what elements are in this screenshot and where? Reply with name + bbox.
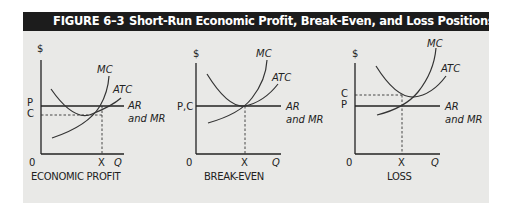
cost-label: C bbox=[341, 88, 348, 99]
panel-economic-profit: $ P C MC ATC AR and MR 0 X Q ECONOMIC PR… bbox=[27, 43, 166, 182]
atc-curve bbox=[51, 89, 121, 116]
atc-curve bbox=[207, 74, 278, 106]
diagrams: $ P C MC ATC AR and MR 0 X Q ECONOMIC PR… bbox=[0, 0, 510, 209]
panel-caption: BREAK-EVEN bbox=[204, 171, 264, 182]
x-mark-label: X bbox=[398, 157, 405, 168]
panel-loss: $ C P MC ATC AR and MR 0 X Q LOSS bbox=[341, 38, 483, 182]
origin-label: 0 bbox=[346, 157, 352, 168]
x-mark-label: X bbox=[98, 157, 105, 168]
ar-label: AR bbox=[127, 100, 142, 111]
mc-curve bbox=[52, 76, 109, 138]
y-axis-label: $ bbox=[193, 48, 199, 59]
x-mark-label: X bbox=[241, 157, 248, 168]
origin-label: 0 bbox=[186, 157, 192, 168]
price-label: P bbox=[27, 97, 33, 108]
atc-label: ATC bbox=[271, 72, 291, 83]
mc-label: MC bbox=[256, 48, 272, 59]
ar-label: AR bbox=[285, 101, 300, 112]
mr-label: and MR bbox=[128, 113, 166, 124]
panel-break-even: $ P,C MC ATC AR and MR 0 X Q BREAK-EVEN bbox=[177, 48, 324, 182]
origin-label: 0 bbox=[29, 157, 35, 168]
mr-label: and MR bbox=[445, 114, 483, 125]
panel-caption: LOSS bbox=[387, 171, 412, 182]
y-axis-label: $ bbox=[352, 48, 358, 59]
mc-curve bbox=[377, 48, 436, 115]
mc-label: MC bbox=[427, 38, 443, 49]
atc-curve bbox=[376, 66, 446, 97]
ar-label: AR bbox=[444, 101, 459, 112]
mc-label: MC bbox=[97, 64, 113, 75]
y-axis-label: $ bbox=[37, 43, 43, 54]
price-label: P bbox=[341, 99, 347, 110]
x-axis-label: Q bbox=[272, 157, 280, 168]
x-axis-label: Q bbox=[114, 157, 122, 168]
atc-label: ATC bbox=[440, 63, 460, 74]
mr-label: and MR bbox=[286, 114, 324, 125]
mc-curve bbox=[208, 60, 267, 123]
price-cost-label: P,C bbox=[177, 101, 193, 112]
cost-label: C bbox=[27, 108, 34, 119]
x-axis-label: Q bbox=[431, 157, 439, 168]
panel-caption: ECONOMIC PROFIT bbox=[31, 171, 122, 182]
atc-label: ATC bbox=[112, 84, 132, 95]
